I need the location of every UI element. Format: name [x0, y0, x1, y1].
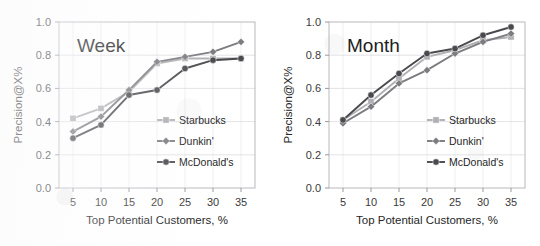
y-axis-tick-label: 0.2 — [306, 149, 321, 161]
y-axis-tick-label: 1.0 — [306, 16, 321, 28]
legend-item-starbucks: Starbucks — [157, 114, 226, 126]
legend-item-starbucks: Starbucks — [427, 114, 496, 126]
y-axis-tick-label: 0.0 — [36, 182, 51, 194]
x-axis-tick-label: 35 — [235, 196, 247, 208]
x-axis-title: Top Potential Customers, % — [356, 214, 498, 226]
y-axis-tick-label: 0.0 — [306, 182, 321, 194]
data-point-mcdonalds — [70, 135, 76, 141]
data-point-starbucks — [98, 105, 104, 111]
x-axis-tick-label: 25 — [449, 196, 461, 208]
data-point-mcdonalds — [424, 50, 430, 56]
legend-marker-starbucks — [433, 117, 439, 123]
data-point-mcdonalds — [238, 55, 244, 61]
data-point-mcdonalds — [340, 117, 346, 123]
line-chart-week: 0.00.20.40.60.81.05101520253035Top Poten… — [0, 0, 270, 246]
y-axis-tick-label: 0.2 — [36, 149, 51, 161]
legend-label-starbucks: Starbucks — [179, 114, 226, 126]
panel-title: Week — [77, 35, 126, 56]
chart-panel-month: 0.00.20.40.60.81.05101520253035Top Poten… — [270, 0, 540, 246]
legend-item-mcdonalds: McDonald's — [157, 156, 234, 168]
legend-label-mcdonalds: McDonald's — [179, 156, 234, 168]
legend-label-mcdonalds: McDonald's — [449, 156, 504, 168]
data-point-dunkin — [209, 48, 216, 55]
x-axis-tick-label: 10 — [365, 196, 377, 208]
data-point-mcdonalds — [210, 57, 216, 63]
y-axis-tick-label: 0.8 — [306, 49, 321, 61]
x-axis-tick-label: 15 — [393, 196, 405, 208]
data-point-mcdonalds — [396, 70, 402, 76]
y-axis-tick-label: 0.6 — [36, 82, 51, 94]
data-point-mcdonalds — [508, 24, 514, 30]
data-point-dunkin — [237, 38, 244, 45]
line-chart-month: 0.00.20.40.60.81.05101520253035Top Poten… — [270, 0, 540, 246]
legend-label-starbucks: Starbucks — [449, 114, 496, 126]
y-axis-tick-label: 0.8 — [36, 49, 51, 61]
data-point-dunkin — [69, 128, 76, 135]
data-point-mcdonalds — [182, 65, 188, 71]
plot-area: 0.00.20.40.60.81.05101520253035Top Poten… — [282, 16, 525, 226]
data-point-starbucks — [70, 115, 76, 121]
data-point-mcdonalds — [126, 92, 132, 98]
x-axis-tick-label: 10 — [95, 196, 107, 208]
x-axis-tick-label: 30 — [207, 196, 219, 208]
legend-marker-dunkin — [432, 137, 439, 144]
x-axis-tick-label: 5 — [70, 196, 76, 208]
y-axis-title: Precision@X% — [12, 67, 24, 144]
x-axis-tick-label: 25 — [179, 196, 191, 208]
chart-panel-week: 0.00.20.40.60.81.05101520253035Top Poten… — [0, 0, 270, 246]
y-axis-tick-label: 0.4 — [36, 116, 51, 128]
data-point-mcdonalds — [154, 87, 160, 93]
y-axis-tick-label: 0.4 — [306, 116, 321, 128]
legend-marker-mcdonalds — [163, 159, 169, 165]
legend-item-mcdonalds: McDonald's — [427, 156, 504, 168]
x-axis-tick-label: 30 — [477, 196, 489, 208]
legend-marker-starbucks — [163, 117, 169, 123]
data-point-mcdonalds — [480, 32, 486, 38]
x-axis-tick-label: 20 — [421, 196, 433, 208]
data-point-mcdonalds — [368, 92, 374, 98]
x-axis-tick-label: 20 — [151, 196, 163, 208]
panel-title: Month — [347, 35, 400, 56]
legend-marker-mcdonalds — [433, 159, 439, 165]
legend-item-dunkin: Dunkin' — [427, 135, 484, 147]
y-axis-tick-label: 0.6 — [306, 82, 321, 94]
x-axis-tick-label: 15 — [123, 196, 135, 208]
x-axis-tick-label: 35 — [505, 196, 517, 208]
y-axis-tick-label: 1.0 — [36, 16, 51, 28]
x-axis-tick-label: 5 — [340, 196, 346, 208]
y-axis-title: Precision@X% — [282, 67, 294, 144]
plot-area: 0.00.20.40.60.81.05101520253035Top Poten… — [12, 16, 255, 226]
data-point-mcdonalds — [452, 45, 458, 51]
figure-container: 0.00.20.40.60.81.05101520253035Top Poten… — [0, 0, 540, 246]
legend-label-dunkin: Dunkin' — [449, 135, 484, 147]
legend-marker-dunkin — [162, 137, 169, 144]
legend-item-dunkin: Dunkin' — [157, 135, 214, 147]
x-axis-title: Top Potential Customers, % — [86, 214, 228, 226]
data-point-mcdonalds — [98, 122, 104, 128]
legend-label-dunkin: Dunkin' — [179, 135, 214, 147]
